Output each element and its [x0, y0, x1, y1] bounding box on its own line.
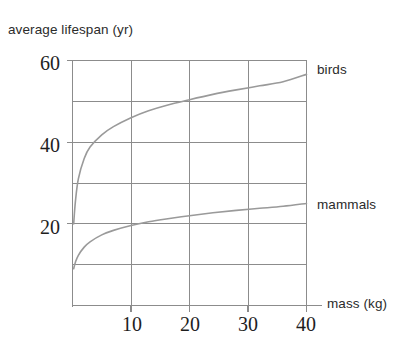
- series-curve-mammals: [74, 203, 307, 268]
- series-curve-birds: [74, 74, 307, 223]
- plot-area: [0, 0, 418, 350]
- chart-page: average lifespan (yr) mass (kg) birds ma…: [0, 0, 418, 350]
- tick-marks: [67, 61, 307, 312]
- series-curves: [74, 74, 307, 268]
